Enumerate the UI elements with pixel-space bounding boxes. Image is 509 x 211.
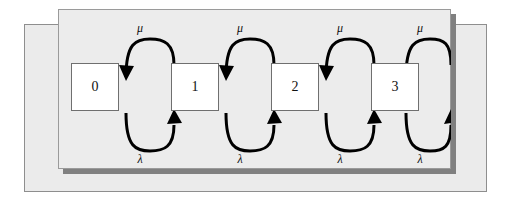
- mu-arc-1: [126, 39, 174, 77]
- lambda-arc-2: [226, 113, 274, 151]
- state-label-1: 1: [172, 64, 218, 110]
- rate-label-lambda-3: λ: [330, 153, 350, 165]
- rate-label-mu-2: μ: [230, 22, 250, 34]
- state-label-2: 2: [272, 64, 318, 110]
- state-box-1[interactable]: 1: [171, 63, 219, 111]
- rate-label-mu-3: μ: [330, 22, 350, 34]
- state-box-3[interactable]: 3: [371, 63, 419, 111]
- rate-label-lambda-2: λ: [230, 153, 250, 165]
- state-label-3: 3: [372, 64, 418, 110]
- rate-label-mu-1: μ: [130, 22, 150, 34]
- mu-arc-2: [226, 39, 274, 77]
- lambda-arrowhead-3: [367, 109, 382, 124]
- mu-arrowhead-1: [119, 65, 134, 81]
- mu-arrowhead-2: [219, 65, 234, 81]
- lambda-arrowhead-4: [444, 109, 451, 124]
- state-label-0: 0: [72, 64, 118, 110]
- state-diagram-figure: 0 1 2 3 μ μ μ μ λ λ λ λ: [0, 0, 509, 211]
- mu-arc-3: [326, 39, 374, 77]
- lambda-arc-3: [326, 113, 374, 151]
- lambda-arrowhead-2: [267, 109, 282, 124]
- rate-label-lambda-1: λ: [130, 153, 150, 165]
- lambda-arc-4: [406, 113, 451, 151]
- lambda-arrowhead-1: [167, 109, 182, 124]
- rate-label-mu-4: μ: [410, 22, 430, 34]
- state-box-2[interactable]: 2: [271, 63, 319, 111]
- rate-label-lambda-4: λ: [410, 153, 430, 165]
- lambda-arc-1: [126, 113, 174, 151]
- diagram-surface: 0 1 2 3 μ μ μ μ λ λ λ λ: [58, 9, 451, 169]
- state-box-0[interactable]: 0: [71, 63, 119, 111]
- mu-arrowhead-3: [319, 65, 334, 81]
